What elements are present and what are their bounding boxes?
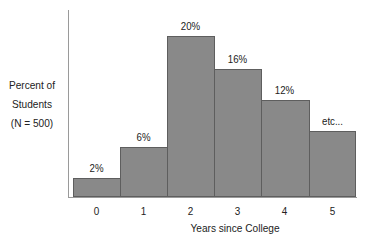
bar-year-0 xyxy=(73,178,121,197)
histogram-chart: Percent of Students (N = 500) 2% 6% 20% … xyxy=(0,0,369,246)
x-tick-3: 3 xyxy=(216,205,258,217)
x-tick-4: 4 xyxy=(263,205,305,217)
x-tick-2: 2 xyxy=(169,205,211,217)
bar-year-2 xyxy=(167,36,215,197)
x-tick-5: 5 xyxy=(311,205,353,217)
bar-year-3 xyxy=(214,69,262,197)
y-axis-label: Percent of Students (N = 500) xyxy=(7,76,56,133)
x-axis-line xyxy=(68,197,357,198)
bar-year-4 xyxy=(261,100,310,197)
y-axis-label-line-3: (N = 500) xyxy=(7,114,56,133)
bar-label-year-0: 2% xyxy=(76,162,117,174)
bar-year-5 xyxy=(309,131,356,197)
bar-label-year-5: etc... xyxy=(312,115,353,127)
y-axis-line xyxy=(68,10,69,198)
x-tick-0: 0 xyxy=(75,205,117,217)
bar-label-year-2: 20% xyxy=(170,20,211,32)
x-tick-1: 1 xyxy=(122,205,164,217)
bar-label-year-3: 16% xyxy=(217,53,258,65)
bar-label-year-4: 12% xyxy=(264,84,305,96)
y-axis-label-line-2: Students xyxy=(7,95,56,114)
y-axis-label-line-1: Percent of xyxy=(7,76,56,95)
bar-year-1 xyxy=(120,147,168,197)
bar-label-year-1: 6% xyxy=(123,131,164,143)
x-axis-label: Years since College xyxy=(178,222,292,234)
